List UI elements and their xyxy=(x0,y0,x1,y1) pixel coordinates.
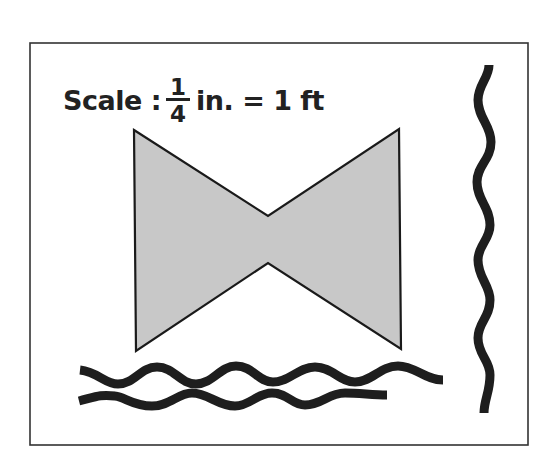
wavy-line-vertical xyxy=(477,65,491,413)
drawing-canvas xyxy=(0,0,549,468)
fraction-numerator: 1 xyxy=(165,76,191,99)
bowtie-shape xyxy=(134,129,401,351)
wavy-line-top xyxy=(80,366,443,384)
scale-label-prefix: Scale : xyxy=(63,87,161,114)
scale-label-suffix: in. = 1 ft xyxy=(196,87,324,114)
wavy-line-bottom xyxy=(79,393,387,406)
scale-fraction: 1 4 xyxy=(165,76,191,126)
scale-drawing-figure: Scale : 1 4 in. = 1 ft xyxy=(0,0,549,468)
fraction-denominator: 4 xyxy=(165,103,191,126)
